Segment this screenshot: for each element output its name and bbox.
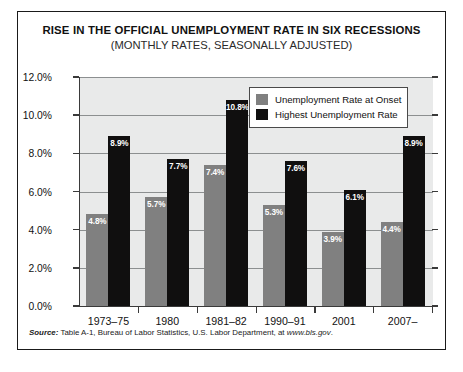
x-axis-tick-mark: [138, 306, 139, 313]
x-axis-tick-mark-end: [432, 306, 433, 313]
source-period: .: [331, 328, 333, 337]
y-axis-tick-label: 6.0%: [6, 186, 52, 197]
y-axis-tick-mark-right: [432, 229, 438, 230]
title-block: RISE IN THE OFFICIAL UNEMPLOYMENT RATE I…: [18, 23, 445, 53]
x-axis-tick-mark: [197, 306, 198, 313]
gridline: [80, 192, 433, 193]
bar-highest: 7.6%: [285, 161, 307, 306]
source-url: www.bls.gov: [287, 328, 331, 337]
x-axis-tick-label: 1973–75: [88, 315, 129, 327]
x-axis-tick-mark: [256, 306, 257, 313]
bar-value-label: 6.1%: [344, 193, 366, 202]
x-axis-tick-mark: [314, 306, 315, 313]
y-axis-tick-mark-right: [432, 267, 438, 268]
y-axis-tick-label: 2.0%: [6, 262, 52, 273]
legend-label-onset: Unemployment Rate at Onset: [275, 94, 401, 105]
y-axis-tick-mark: [73, 191, 79, 192]
chart-subtitle: (MONTHLY RATES, SEASONALLY ADJUSTED): [18, 38, 445, 53]
legend-swatch-highest-icon: [256, 109, 268, 120]
y-axis-tick-label: 12.0%: [6, 72, 52, 83]
y-axis-tick-label: 0.0%: [6, 301, 52, 312]
bar-onset: 3.9%: [322, 232, 344, 306]
bar-value-label: 4.8%: [86, 217, 108, 226]
bar-value-label: 3.9%: [322, 235, 344, 244]
source-text: Table A-1, Bureau of Labor Statistics, U…: [58, 328, 286, 337]
gridline: [80, 77, 433, 78]
y-axis-tick-label: 4.0%: [6, 224, 52, 235]
page-title: RISE IN THE OFFICIAL UNEMPLOYMENT RATE I…: [18, 23, 445, 37]
bar-highest: 7.7%: [167, 159, 189, 306]
bar-value-label: 8.9%: [108, 139, 130, 148]
bar-onset: 4.4%: [381, 222, 403, 306]
y-axis-tick-label: 8.0%: [6, 148, 52, 159]
x-axis-tick-label: 1990–91: [264, 315, 305, 327]
y-axis-tick-mark: [73, 305, 79, 306]
x-axis-tick-label: 1981–82: [205, 315, 246, 327]
y-axis-tick-mark: [73, 153, 79, 154]
bar-value-label: 4.4%: [381, 225, 403, 234]
bar-highest: 6.1%: [344, 190, 366, 306]
bar-value-label: 8.9%: [403, 139, 425, 148]
y-axis-tick-mark-right: [432, 191, 438, 192]
bar-highest: 8.9%: [403, 136, 425, 306]
bar-value-label: 7.6%: [285, 164, 307, 173]
x-axis-tick-label: 2007–: [388, 315, 417, 327]
x-axis-tick-mark: [373, 306, 374, 313]
y-axis-tick-mark-right: [432, 114, 438, 115]
bar-onset: 5.7%: [145, 197, 167, 306]
bar-value-label: 10.8%: [226, 103, 248, 112]
y-axis-tick-label: 10.0%: [6, 110, 52, 121]
y-axis-tick-mark-right: [432, 76, 438, 77]
bar-highest: 8.9%: [108, 136, 130, 306]
legend-label-highest: Highest Unemployment Rate: [275, 109, 398, 120]
x-axis-tick-label: 1980: [155, 315, 179, 327]
legend-swatch-onset-icon: [256, 94, 268, 105]
bar-onset: 4.8%: [86, 214, 108, 306]
bar-highest: 10.8%: [226, 100, 248, 306]
bar-value-label: 7.4%: [204, 168, 226, 177]
legend-item-highest: Highest Unemployment Rate: [256, 107, 401, 122]
x-axis-tick-label: 2001: [332, 315, 356, 327]
bar-value-label: 5.3%: [263, 208, 285, 217]
source-note: Source: Table A-1, Bureau of Labor Stati…: [29, 328, 333, 337]
bar-value-label: 7.7%: [167, 162, 189, 171]
y-axis-tick-mark-right: [432, 153, 438, 154]
legend-item-onset: Unemployment Rate at Onset: [256, 92, 401, 107]
bar-onset: 7.4%: [204, 165, 226, 306]
chart-legend: Unemployment Rate at Onset Highest Unemp…: [249, 87, 408, 128]
y-axis-tick-mark: [73, 229, 79, 230]
bar-value-label: 5.7%: [145, 200, 167, 209]
y-axis-tick-mark: [73, 114, 79, 115]
source-label: Source:: [29, 328, 58, 337]
y-axis-tick-mark: [73, 76, 79, 77]
gridline: [80, 153, 433, 154]
bar-onset: 5.3%: [263, 205, 285, 306]
chart-figure: RISE IN THE OFFICIAL UNEMPLOYMENT RATE I…: [17, 11, 446, 350]
y-axis-tick-mark: [73, 267, 79, 268]
